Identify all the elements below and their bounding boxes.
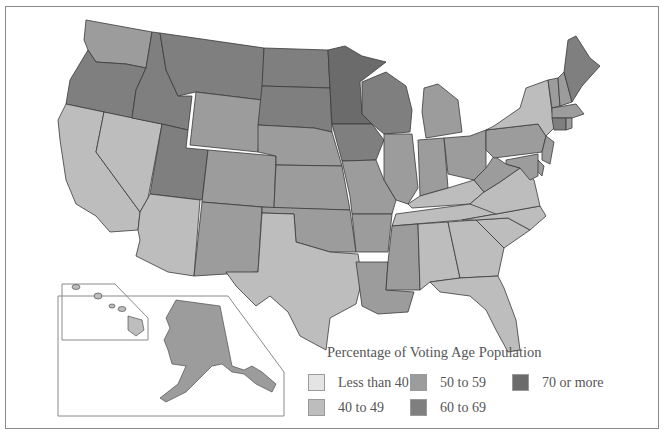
state-SD[interactable] <box>258 86 332 132</box>
swatch-70-or-more <box>512 374 529 391</box>
legend-item-40-to-49: 40 to 49 <box>308 399 384 416</box>
swatch-less-than-40 <box>308 374 325 391</box>
legend-item-less-than-40: Less than 40 <box>308 374 409 391</box>
swatch-40-to-49 <box>308 399 325 416</box>
state-IN[interactable] <box>418 138 448 196</box>
state-OH[interactable] <box>444 130 486 180</box>
state-ME[interactable] <box>564 36 600 102</box>
state-IA[interactable] <box>332 124 384 161</box>
legend-label: 60 to 69 <box>440 400 486 416</box>
legend-item-60-to-69: 60 to 69 <box>410 399 486 416</box>
legend-label: 40 to 49 <box>338 400 384 416</box>
state-CT[interactable] <box>552 118 566 130</box>
state-ND[interactable] <box>262 48 330 88</box>
state-KS[interactable] <box>274 165 350 210</box>
state-AK[interactable] <box>160 300 276 402</box>
state-MT[interactable] <box>160 33 264 100</box>
state-CO[interactable] <box>202 150 276 208</box>
state-HI[interactable] <box>72 285 144 337</box>
legend-item-50-to-59: 50 to 59 <box>410 374 486 391</box>
legend-label: 50 to 59 <box>440 375 486 391</box>
state-WY[interactable] <box>190 92 262 152</box>
swatch-60-to-69 <box>410 399 427 416</box>
state-RI[interactable] <box>566 118 572 130</box>
swatch-50-to-59 <box>410 374 427 391</box>
legend-label: 70 or more <box>542 375 603 391</box>
state-AZ[interactable] <box>136 194 200 276</box>
state-MI[interactable] <box>422 84 462 138</box>
state-FL[interactable] <box>430 276 520 352</box>
state-NM[interactable] <box>194 202 262 276</box>
us-choropleth-map <box>0 0 664 435</box>
legend-label: Less than 40 <box>338 375 409 391</box>
state-AR[interactable] <box>352 214 392 252</box>
legend-item-70-or-more: 70 or more <box>512 374 603 391</box>
state-MS[interactable] <box>386 224 420 290</box>
legend-title: Percentage of Voting Age Population <box>327 344 542 361</box>
